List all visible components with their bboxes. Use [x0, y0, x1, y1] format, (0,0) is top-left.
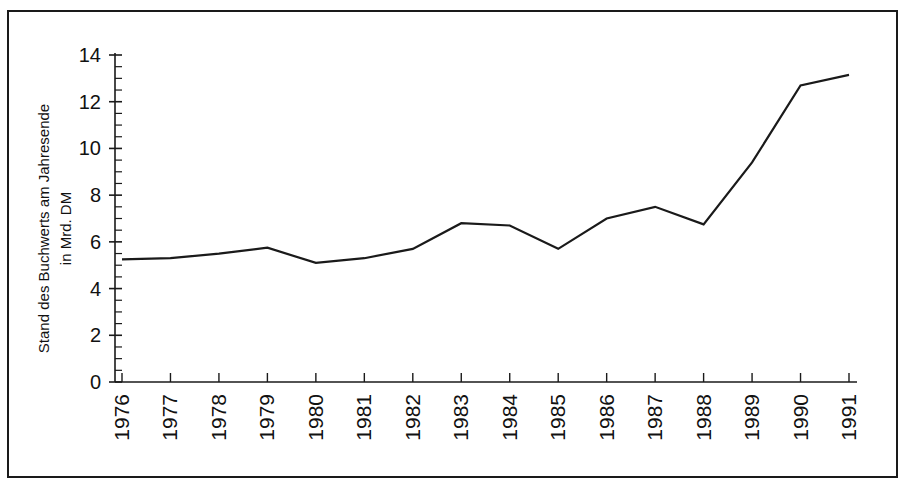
x-axis-tick-label: 1979	[255, 394, 278, 441]
x-axis-tick-label: 1976	[110, 394, 133, 441]
plot-area: 0246810121419761977197819791980198119821…	[35, 44, 860, 441]
x-axis-tick-label: 1989	[740, 394, 763, 441]
y-axis-tick-label: 8	[90, 184, 101, 206]
y-axis-title-line: Stand des Buchwerts am Jahresende	[35, 104, 52, 353]
x-axis-tick-label: 1984	[498, 394, 521, 441]
y-axis-tick-label: 10	[79, 137, 101, 159]
x-axis-tick-label: 1977	[158, 394, 181, 441]
x-axis-tick-label: 1978	[207, 394, 230, 441]
x-axis-tick-label: 1985	[546, 394, 569, 441]
x-axis-tick-label: 1991	[837, 394, 860, 441]
y-axis-tick-label: 2	[90, 324, 101, 346]
x-axis-tick-label: 1981	[352, 394, 375, 441]
data-series-line	[122, 75, 849, 263]
x-axis-tick-label: 1980	[304, 394, 327, 441]
x-axis-tick-label: 1990	[789, 394, 812, 441]
chart-outer-frame: 0246810121419761977197819791980198119821…	[7, 10, 898, 478]
x-axis-tick-label: 1982	[401, 394, 424, 441]
x-axis-tick-label: 1986	[595, 394, 618, 441]
x-axis-tick-label: 1983	[449, 394, 472, 441]
chart-figure: 0246810121419761977197819791980198119821…	[0, 0, 910, 488]
line-chart-canvas: 0246810121419761977197819791980198119821…	[9, 12, 896, 476]
y-axis-tick-label: 4	[90, 278, 101, 300]
y-axis-title-line: in Mrd. DM	[57, 192, 74, 265]
y-axis-tick-label: 12	[79, 91, 101, 113]
x-axis-tick-label: 1988	[692, 394, 715, 441]
x-axis-tick-label: 1987	[643, 394, 666, 441]
y-axis-tick-label: 0	[90, 371, 101, 393]
y-axis-tick-label: 14	[79, 44, 101, 66]
y-axis-tick-label: 6	[90, 231, 101, 253]
